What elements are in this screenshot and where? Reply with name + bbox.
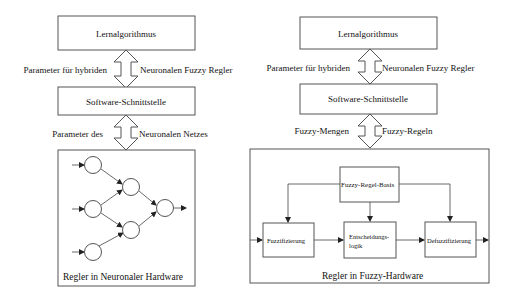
right-software-interface-label: Software-Schnittstelle — [328, 94, 408, 104]
right-double-arrow-1-icon — [358, 49, 382, 84]
decision-logic-label-line2: logik — [349, 242, 363, 249]
left-arrow1-left-label: Parameter für hybriden — [24, 65, 108, 75]
input-neuron-1 — [85, 157, 102, 174]
hidden-neuron-1 — [123, 179, 140, 196]
defuzzification-label: Defuzzifizierung — [427, 237, 472, 244]
hidden-neuron-2 — [123, 222, 140, 239]
fuzzification-label: Fuzzifizierung — [267, 237, 306, 244]
left-double-arrow-1-icon — [114, 50, 138, 88]
left-arrow2-left-label: Parameter des — [52, 129, 103, 139]
right-double-arrow-2-icon — [358, 114, 382, 148]
left-arrow1-right-label: Neuronalen Fuzzy Regler — [140, 65, 232, 75]
neural-hardware-box — [58, 150, 195, 286]
neural-hardware-label: Regler in Neuronaler Hardware — [63, 272, 183, 282]
right-arrow1-right-label: Neuronalen Fuzzy Regler — [382, 63, 474, 73]
fuzzy-hardware-label: Regler in Fuzzy-Hardware — [322, 271, 423, 281]
right-arrow2-left-label: Fuzzy-Mengen — [295, 126, 350, 136]
right-arrow2-right-label: Fuzzy-Regeln — [382, 126, 433, 136]
fuzzy-rule-base-label: Fuzzy-Regel-Basis — [341, 181, 395, 189]
left-learning-algorithm-label: Lernalgorithmus — [96, 29, 156, 39]
left-double-arrow-2-icon — [114, 115, 138, 150]
right-diagram: Lernalgorithmus Parameter für hybriden N… — [250, 17, 489, 283]
right-learning-algorithm-label: Lernalgorithmus — [338, 29, 398, 39]
left-arrow2-right-label: Neuronalen Netzes — [139, 129, 208, 139]
output-neuron — [157, 200, 174, 217]
left-software-interface-label: Software-Schnittstelle — [86, 97, 166, 107]
input-neuron-3 — [85, 244, 102, 261]
right-arrow1-left-label: Parameter für hybriden — [267, 63, 351, 73]
decision-logic-label-line1: Entscheidungs- — [349, 233, 389, 240]
left-diagram: Lernalgorithmus Parameter für hybriden N… — [24, 16, 233, 286]
decision-logic-box — [344, 222, 396, 258]
diagram-canvas: Lernalgorithmus Parameter für hybriden N… — [0, 0, 512, 302]
input-neuron-2 — [85, 201, 102, 218]
